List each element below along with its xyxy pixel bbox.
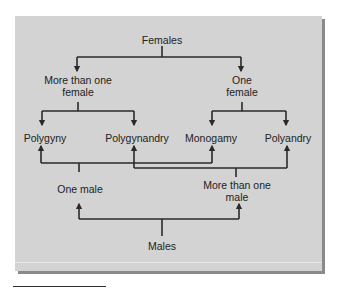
females-connector [77,46,241,71]
node-one-male: One male [57,183,103,195]
node-label-line2: female [44,86,112,98]
node-females: Females [142,34,182,46]
node-more-than-one-male: More than one male [203,179,271,203]
node-polyandry: Polyandry [265,132,312,144]
node-males: Males [148,240,176,252]
one-female-connector [212,102,286,125]
node-label-line1: More than one [203,179,271,191]
node-label-line1: One [226,74,258,86]
node-more-than-one-female: More than one female [44,74,112,98]
node-polygyny: Polygyny [24,132,67,144]
multi-male-connector [134,146,287,177]
node-label-line2: female [226,86,258,98]
multi-female-connector [42,102,134,125]
males-connector [79,204,239,236]
node-one-female: One female [226,74,258,98]
node-label-line1: More than one [44,74,112,86]
node-monogamy: Monogamy [185,132,237,144]
node-polygynandry: Polygynandry [105,132,169,144]
node-label-line2: male [203,191,271,203]
footnote-rule [13,286,106,287]
